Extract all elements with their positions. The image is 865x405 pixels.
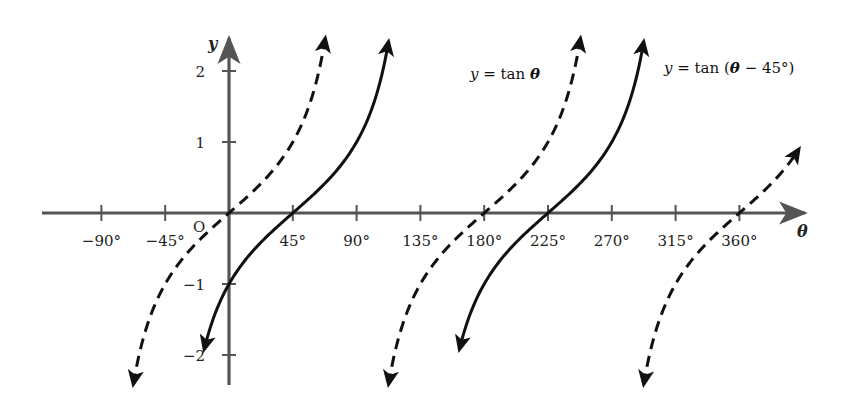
x-tick-label: 315° — [658, 232, 694, 250]
tan-theta-minus-45-branch — [204, 42, 388, 350]
y-tick-label: −2 — [183, 347, 205, 365]
x-tick-label: 270° — [594, 232, 630, 250]
label-tan-theta: y = tan θ — [469, 65, 540, 83]
tan-theta-minus-45-branch — [459, 42, 643, 350]
x-tick-label: 225° — [530, 232, 566, 250]
curves — [133, 38, 799, 384]
tangent-graph: −90°−45°45°90°135°180°225°270°315°360°−2… — [0, 0, 865, 405]
label-tan-theta-minus-45: y = tan (θ − 45°) — [663, 59, 794, 77]
x-tick-label: 90° — [343, 232, 370, 250]
y-axis-label: y — [207, 34, 219, 53]
x-tick-label: 45° — [280, 232, 307, 250]
x-tick-label: −90° — [82, 232, 121, 250]
x-tick-label: 360° — [721, 232, 757, 250]
x-tick-label: −45° — [146, 232, 185, 250]
axes — [42, 38, 805, 385]
x-tick-label: 180° — [466, 232, 502, 250]
x-tick-label: 135° — [402, 232, 438, 250]
x-axis-label: θ — [797, 222, 808, 241]
y-tick-label: 1 — [195, 134, 205, 152]
y-tick-label: 2 — [195, 63, 205, 81]
y-tick-label: −1 — [183, 276, 205, 294]
origin-label: O — [193, 218, 205, 236]
labels: −90°−45°45°90°135°180°225°270°315°360°−2… — [82, 34, 808, 365]
tan-theta-branch — [644, 149, 799, 384]
